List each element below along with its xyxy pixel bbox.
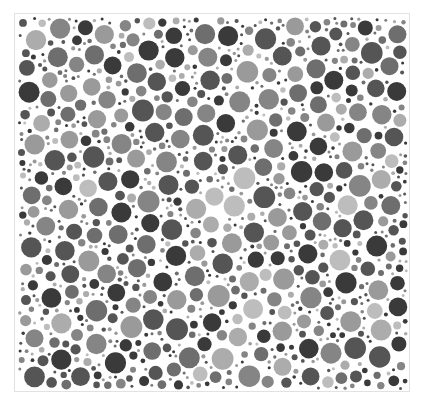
dot: [126, 375, 133, 382]
dot: [106, 77, 113, 84]
dot: [127, 63, 147, 83]
dot: [388, 225, 398, 235]
dot: [45, 248, 50, 253]
dot: [124, 79, 128, 83]
dot: [370, 143, 386, 159]
dot: [293, 369, 298, 374]
dot: [187, 305, 195, 313]
dot: [183, 372, 186, 375]
dot: [190, 288, 203, 301]
dot: [41, 53, 44, 56]
dot: [206, 333, 209, 336]
dot: [20, 264, 32, 276]
dot: [287, 209, 290, 212]
dot: [366, 236, 387, 257]
dot: [93, 219, 100, 226]
dot: [243, 261, 246, 264]
dot: [49, 337, 59, 347]
dot: [393, 114, 406, 127]
dot: [392, 368, 395, 371]
dot: [75, 99, 86, 110]
dot: [397, 176, 400, 179]
dot: [325, 59, 328, 62]
dot: [210, 371, 222, 383]
dot: [334, 219, 352, 237]
dot: [345, 37, 360, 52]
dot: [124, 52, 134, 62]
dot: [255, 81, 259, 85]
dot: [280, 186, 283, 189]
dot: [183, 156, 189, 162]
dot: [162, 198, 165, 201]
dot: [269, 321, 272, 324]
dot: [277, 162, 285, 170]
dot: [119, 33, 125, 39]
dot: [158, 301, 164, 307]
dot: [255, 104, 259, 108]
dot: [25, 134, 45, 154]
dot: [183, 25, 186, 28]
dot: [59, 284, 62, 287]
dot: [61, 40, 65, 44]
dot: [403, 379, 408, 384]
dot: [65, 124, 68, 127]
dot: [48, 47, 68, 67]
dot: [222, 233, 242, 253]
dot: [278, 306, 292, 320]
dot: [200, 71, 219, 90]
dot: [388, 25, 406, 43]
dot: [404, 201, 407, 204]
dot: [352, 58, 358, 64]
dot: [341, 299, 346, 304]
dot: [270, 183, 273, 186]
dot: [179, 214, 182, 217]
dot: [262, 321, 266, 325]
dot: [142, 283, 146, 287]
dot: [121, 311, 124, 314]
dot: [200, 301, 204, 305]
dot: [292, 375, 296, 379]
dot: [220, 54, 232, 66]
dot: [225, 320, 229, 324]
dot: [42, 196, 52, 206]
dot: [206, 176, 213, 183]
dot: [28, 280, 38, 290]
dot: [144, 333, 148, 337]
dot: [175, 81, 190, 96]
dot: [339, 42, 343, 46]
dot: [399, 194, 402, 197]
dot: [83, 146, 104, 167]
dot: [205, 381, 210, 386]
dot: [230, 67, 233, 70]
dot: [310, 81, 323, 94]
dot: [206, 269, 209, 272]
dot: [79, 180, 97, 198]
dot: [105, 352, 126, 373]
dot: [121, 170, 139, 188]
dot: [370, 169, 373, 172]
dot: [186, 224, 189, 227]
dot: [319, 338, 322, 341]
dot: [313, 212, 331, 230]
dot: [282, 42, 285, 45]
dot: [136, 86, 147, 97]
dot: [178, 278, 181, 281]
dot: [337, 328, 340, 331]
dot: [135, 18, 140, 23]
dot: [237, 54, 240, 57]
dot: [78, 239, 85, 246]
dot: [67, 165, 73, 171]
dot: [87, 228, 103, 244]
dot: [349, 103, 367, 121]
dot: [343, 387, 346, 390]
dot: [243, 45, 254, 56]
dot: [264, 139, 283, 158]
dot: [59, 200, 78, 219]
dot: [114, 332, 117, 335]
dot: [134, 237, 137, 240]
dot: [397, 362, 405, 370]
dot: [207, 97, 210, 100]
dot: [286, 18, 304, 36]
dot: [24, 366, 45, 387]
dot: [219, 309, 225, 315]
